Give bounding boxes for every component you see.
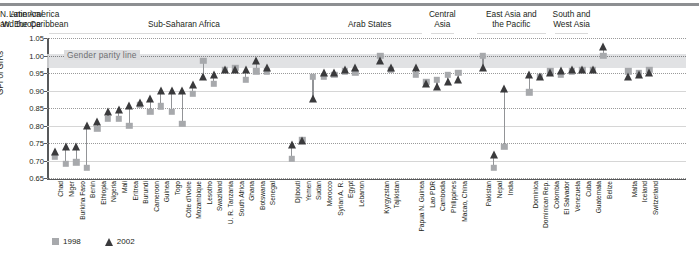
data-point-2002 [115,105,123,113]
category-label: Philippines [450,181,457,213]
data-point-2002 [189,81,197,89]
data-point-1998 [62,161,68,167]
category-label: Guinea [163,181,170,202]
category-label: Burkina Faso [79,181,86,220]
legend-label-1998: 1998 [63,237,81,246]
data-point-1998 [253,68,259,74]
data-point-2002 [125,102,133,110]
data-point-2002 [624,72,632,80]
category-label: Kyrgyzstan [383,181,390,214]
y-tick-label: 0.95 [2,69,44,78]
category-labels: ChadNigerBurkina FasoBeninEthiopiaNigeri… [47,181,686,239]
data-point-1998 [147,108,153,114]
legend-label-2002: 2002 [117,237,135,246]
category-label: Mali [121,181,128,193]
category-label: U. R. Tanzania [227,181,234,224]
data-point-1998 [84,164,90,170]
data-point-2002 [412,63,420,71]
category-label: Dominica [532,181,539,208]
region-rule [431,33,454,34]
data-point-1998 [211,80,217,86]
category-label: Mozambique [195,181,202,219]
category-label: Benin [89,181,96,198]
data-point-2002 [589,65,597,73]
region-rule [555,33,588,34]
data-point-2002 [599,42,607,50]
data-point-2002 [157,86,165,94]
category-label: Senegal [269,181,276,205]
category-label: Nepal [496,181,503,198]
data-point-1998 [115,115,121,121]
data-point-1998 [190,91,196,97]
data-point-2002 [210,70,218,78]
data-point-1998 [105,115,111,121]
category-label: Djibouti [294,181,301,203]
data-point-2002 [557,67,565,75]
category-label: Niger [68,181,75,197]
y-tick-label: 0.90 [2,86,44,95]
data-point-1998 [168,108,174,114]
data-point-2002 [72,142,80,150]
data-point-1998 [200,58,206,64]
top-rule [0,3,699,6]
category-label: Malta [631,181,638,197]
data-point-1998 [600,52,606,58]
y-tick-label: 0.80 [2,121,44,130]
category-label: Belize [606,181,613,199]
data-point-2002 [376,56,384,64]
data-point-2002 [83,121,91,129]
data-point-2002 [136,98,144,106]
category-label: Swaziland [216,181,223,211]
region-header: CentralAsia [416,10,468,29]
data-point-2002 [252,56,260,64]
y-tick-label: 0.70 [2,156,44,165]
category-label: Guatemala [595,181,602,213]
data-point-1998 [179,121,185,127]
data-point-2002 [568,65,576,73]
category-label: Venezuela [574,181,581,212]
data-point-2002 [341,65,349,73]
gridline [47,91,686,92]
y-axis-ticks: 0.650.700.750.800.850.900.951.001.05 [0,38,44,179]
region-label-line: West Asia [544,20,599,30]
region-header: N. America/W. Europe [0,10,43,29]
category-label: Chad [57,181,64,197]
connector-line [504,89,505,147]
category-label: Togo [174,181,181,195]
data-point-1998 [480,52,486,58]
gender-parity-line [47,56,686,57]
category-label: Dominican Rep. [542,181,549,228]
data-point-1998 [490,164,496,170]
data-point-2002 [146,95,154,103]
data-point-1998 [158,103,164,109]
data-point-2002 [242,65,250,73]
region-rule [49,33,319,34]
data-point-2002 [479,63,487,71]
category-label: Egypt [347,181,354,198]
chart-figure: 0.650.700.750.800.850.900.951.001.05 GPI… [0,0,699,255]
data-point-2002 [454,76,462,84]
data-point-2002 [199,72,207,80]
data-point-1998 [73,159,79,165]
data-point-1998 [413,72,419,78]
data-point-2002 [62,142,70,150]
gridline [47,73,686,74]
y-axis-label: GPI of GIRs [0,51,5,95]
region-label-line: Asia [416,20,468,30]
connector-line [86,126,87,168]
category-label: Syrian A. R. [337,181,344,216]
y-tick-label: 0.65 [2,174,44,183]
data-point-2002 [168,86,176,94]
data-point-1998 [289,156,295,162]
category-label: Morocco [326,181,333,206]
region-rule [477,33,546,34]
gridline [47,38,686,39]
category-label: Iceland [641,181,648,202]
data-point-2002 [298,137,306,145]
category-label: Colombia [553,181,560,209]
category-label: Ethiopia [100,181,107,205]
data-point-2002 [387,63,395,71]
category-label: Pakistan [485,181,492,206]
category-label: El Salvador [563,181,570,215]
category-label: Cuba [585,181,592,197]
